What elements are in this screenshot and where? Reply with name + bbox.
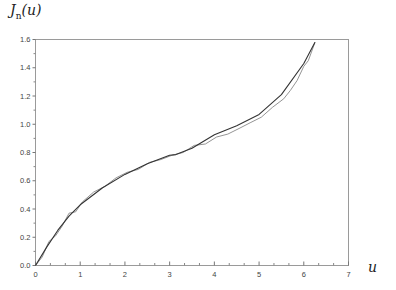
series-oscillating	[36, 42, 316, 265]
y-tick-label: 0.0	[20, 261, 30, 270]
x-tick-label: 2	[123, 270, 127, 279]
x-tick-label: 6	[302, 270, 306, 279]
y-tick-label: 1.0	[20, 120, 30, 129]
series-smooth	[36, 42, 316, 265]
x-tick-label: 4	[212, 270, 216, 279]
x-tick-label: 3	[168, 270, 172, 279]
plot-border	[36, 40, 349, 266]
y-tick-label: 0.4	[20, 205, 30, 214]
y-tick-label: 0.2	[20, 233, 30, 242]
x-tick-label: 1	[78, 270, 82, 279]
data-lines	[36, 42, 316, 265]
y-tick-label: 1.4	[20, 63, 30, 72]
x-tick-label: 5	[257, 270, 261, 279]
y-tick-label: 0.6	[20, 176, 30, 185]
y-tick-label: 1.2	[20, 92, 30, 101]
y-tick-label: 0.8	[20, 148, 30, 157]
plot-frame	[36, 40, 349, 266]
x-tick-label: 7	[346, 270, 350, 279]
x-tick-label: 0	[33, 270, 37, 279]
y-tick-label: 1.6	[20, 35, 30, 44]
chart-canvas: 012345670.00.20.40.60.81.01.21.41.6	[0, 0, 396, 290]
